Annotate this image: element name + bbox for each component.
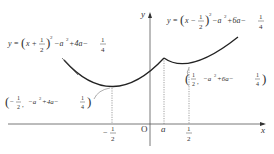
svg-text:−a: −a	[28, 98, 37, 106]
svg-text:1: 1	[199, 13, 203, 21]
left-parabola	[64, 58, 164, 87]
origin-label: O	[141, 124, 148, 134]
svg-text:1: 1	[81, 95, 84, 101]
right-vertex-label: ( 1 2 , −a 2 +6a− 1 4 )	[185, 71, 266, 87]
x-axis-label: x	[260, 125, 265, 135]
svg-text:2: 2	[17, 104, 20, 110]
svg-text:1: 1	[256, 72, 259, 78]
svg-text:−: −	[10, 98, 14, 106]
graph-diagram: y x O − 1 2 a 1 2 y = ( x + 1 2 ) 2 −a 2…	[0, 0, 274, 154]
svg-text:4: 4	[256, 81, 259, 87]
svg-text:): )	[87, 94, 91, 109]
svg-text:−a: −a	[54, 39, 63, 48]
svg-text:2: 2	[214, 73, 216, 78]
svg-text:2: 2	[192, 81, 195, 87]
svg-text:1: 1	[101, 36, 105, 44]
svg-text:y: y	[166, 16, 171, 25]
svg-text:1: 1	[192, 72, 195, 78]
tick-half: 1 2	[186, 125, 192, 143]
svg-text:2: 2	[50, 35, 53, 40]
svg-text:=: =	[14, 39, 19, 48]
svg-text:(: (	[185, 71, 189, 86]
svg-text:(: (	[5, 94, 9, 109]
svg-text:(: (	[180, 12, 184, 27]
svg-text:−a: −a	[212, 16, 221, 25]
svg-text:,: ,	[197, 78, 199, 86]
svg-text:+6a−: +6a−	[227, 16, 246, 25]
y-axis-arrow-icon	[148, 12, 152, 18]
svg-text:1: 1	[187, 125, 191, 133]
svg-text:+4a−: +4a−	[69, 39, 88, 48]
svg-text:=: =	[173, 16, 178, 25]
svg-text:+: +	[32, 39, 37, 48]
svg-text:2: 2	[39, 96, 41, 101]
svg-text:−: −	[103, 128, 108, 137]
svg-text:,: ,	[22, 101, 24, 109]
svg-text:−: −	[191, 16, 196, 25]
svg-text:+6a−: +6a−	[217, 75, 234, 83]
left-vertex-leader	[94, 88, 110, 99]
tick-a: a	[161, 124, 166, 134]
svg-text:2: 2	[111, 135, 115, 143]
svg-text:): )	[262, 71, 266, 86]
svg-text:x: x	[25, 39, 30, 48]
left-vertex-label: ( − 1 2 , −a 2 +4a− 1 4 )	[5, 94, 91, 110]
svg-text:4: 4	[259, 23, 263, 31]
left-equation: y = ( x + 1 2 ) 2 −a 2 +4a− 1 4	[7, 35, 106, 54]
svg-text:1: 1	[40, 36, 44, 44]
svg-text:x: x	[184, 16, 189, 25]
svg-text:2: 2	[187, 135, 191, 143]
svg-text:1: 1	[111, 125, 115, 133]
svg-text:(: (	[21, 35, 25, 50]
y-axis-label: y	[140, 9, 145, 19]
svg-text:y: y	[7, 39, 12, 48]
svg-text:+4a−: +4a−	[42, 98, 59, 106]
svg-text:2: 2	[199, 23, 203, 31]
svg-text:1: 1	[17, 95, 20, 101]
svg-text:−a: −a	[203, 75, 212, 83]
right-equation: y = ( x − 1 2 ) 2 −a 2 +6a− 1 4	[166, 12, 264, 31]
svg-text:4: 4	[101, 46, 105, 54]
svg-text:4: 4	[81, 104, 84, 110]
tick-neg-half: − 1 2	[103, 125, 116, 143]
right-parabola	[164, 37, 238, 64]
left-equation-leader	[62, 58, 78, 75]
svg-text:1: 1	[259, 13, 263, 21]
svg-text:2: 2	[40, 46, 44, 54]
